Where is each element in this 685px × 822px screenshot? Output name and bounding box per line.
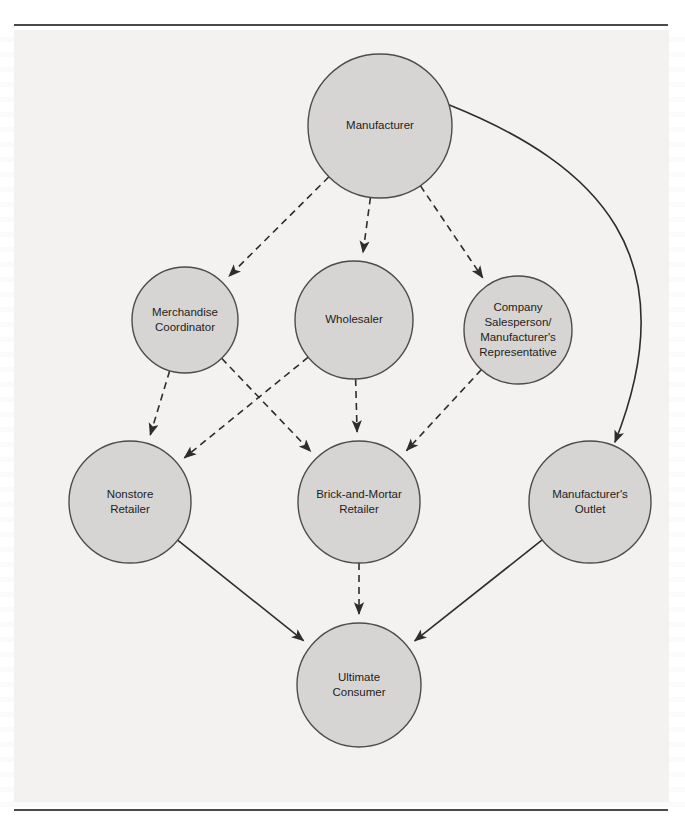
node-brick[interactable]: Brick-and-MortarRetailer — [298, 441, 420, 563]
node-label-line: Nonstore — [107, 488, 154, 500]
node-label: Wholesaler — [325, 313, 383, 325]
node-label-line: Ultimate — [338, 671, 380, 683]
node-label-line: Retailer — [339, 503, 379, 515]
edge-nonstore-to-consumer — [178, 540, 304, 641]
top-divider-rule — [14, 24, 668, 26]
edge-manufacturer-to-merchandise — [229, 177, 329, 276]
edge-line — [449, 105, 642, 443]
edge-manufacturer-to-salesperson — [420, 186, 482, 278]
node-label-line: Manufacturer — [346, 119, 414, 131]
edge-merchandise-to-nonstore — [150, 371, 169, 435]
node-label-line: Consumer — [332, 686, 385, 698]
edge-wholesaler-to-brick — [356, 379, 357, 432]
node-label-line: Coordinator — [155, 321, 215, 333]
edge-line — [150, 371, 169, 435]
node-label-line: Retailer — [110, 503, 150, 515]
edge-line — [222, 358, 311, 451]
bottom-divider-rule — [14, 809, 668, 811]
node-label-line: Outlet — [575, 503, 606, 515]
edge-line — [184, 357, 308, 458]
node-wholesaler[interactable]: Wholesaler — [295, 261, 413, 379]
node-nonstore[interactable]: NonstoreRetailer — [69, 441, 191, 563]
node-merchandise[interactable]: MerchandiseCoordinator — [132, 267, 238, 373]
edge-salesperson-to-brick — [407, 370, 482, 451]
edge-line — [407, 370, 482, 451]
node-label-line: Brick-and-Mortar — [316, 488, 402, 500]
node-outlet[interactable]: Manufacturer'sOutlet — [529, 441, 651, 563]
figure-panel: ManufacturerMerchandiseCoordinatorWholes… — [14, 30, 669, 802]
channel-structure-diagram: ManufacturerMerchandiseCoordinatorWholes… — [14, 30, 669, 802]
node-label-line: Company — [493, 301, 542, 313]
node-label-line: Manufacturer's — [480, 331, 556, 343]
edge-wholesaler-to-nonstore — [184, 357, 308, 458]
node-label-line: Merchandise — [152, 306, 218, 318]
node-consumer[interactable]: UltimateConsumer — [297, 623, 421, 747]
node-label-line: Representative — [479, 346, 556, 358]
node-manufacturer[interactable]: Manufacturer — [308, 54, 452, 198]
node-label-line: Wholesaler — [325, 313, 383, 325]
edge-outlet-to-consumer — [415, 540, 543, 641]
edge-line — [178, 540, 304, 641]
edge-line — [229, 177, 329, 276]
node-label: Manufacturer — [346, 119, 414, 131]
edge-line — [356, 379, 357, 432]
edge-manufacturer-to-outlet — [449, 105, 642, 443]
edge-line — [415, 540, 543, 641]
node-salesperson[interactable]: CompanySalesperson/Manufacturer'sReprese… — [464, 276, 572, 384]
edge-line — [363, 197, 370, 252]
page-canvas: ManufacturerMerchandiseCoordinatorWholes… — [0, 0, 685, 822]
nodes-layer: ManufacturerMerchandiseCoordinatorWholes… — [69, 54, 651, 747]
edge-line — [420, 186, 482, 278]
edge-manufacturer-to-wholesaler — [363, 197, 370, 252]
node-label-line: Manufacturer's — [552, 488, 628, 500]
node-label-line: Salesperson/ — [484, 316, 552, 328]
edge-merchandise-to-brick — [222, 358, 311, 451]
